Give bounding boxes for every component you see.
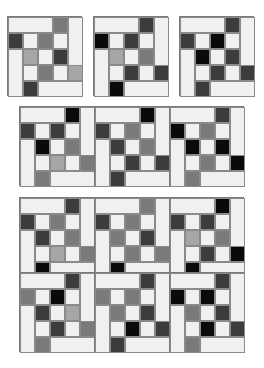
light-strip (20, 107, 65, 123)
quilt-square (225, 49, 240, 65)
quilt-square (185, 230, 200, 246)
quilt-square (200, 214, 215, 230)
quilt-square (23, 65, 38, 81)
quilt-block (19, 106, 94, 186)
light-strip (8, 17, 53, 33)
quilt-square (140, 289, 155, 305)
quilt-block (169, 106, 244, 186)
light-strip (20, 273, 65, 289)
quilt-block (169, 272, 244, 352)
quilt-square (80, 155, 95, 171)
light-strip (8, 49, 23, 97)
quilt-square (195, 49, 210, 65)
quilt-square (215, 305, 230, 321)
quilt-block (94, 106, 169, 186)
quilt-square (200, 289, 215, 305)
quilt-square (109, 33, 124, 49)
quilt-square (140, 139, 155, 155)
quilt-square (50, 155, 65, 171)
light-strip (20, 305, 35, 353)
light-strip (125, 171, 170, 187)
quilt-square (35, 289, 50, 305)
quilt-square (195, 65, 210, 81)
quilt-square (109, 65, 124, 81)
quilt-square (240, 65, 255, 81)
quilt-square (140, 198, 155, 214)
quilt-square (180, 33, 195, 49)
light-strip (200, 171, 245, 187)
light-strip (95, 230, 110, 278)
quilt-square (109, 81, 124, 97)
quilt-square (53, 33, 68, 49)
quilt-square (210, 49, 225, 65)
quilt-square (230, 321, 245, 337)
quilt-square (35, 171, 50, 187)
quilt-square (65, 139, 80, 155)
quilt-square (200, 155, 215, 171)
light-strip (180, 49, 195, 97)
quilt-square (185, 139, 200, 155)
light-strip (95, 198, 140, 214)
quilt-square (140, 230, 155, 246)
quilt-square (225, 33, 240, 49)
quilt-square (110, 123, 125, 139)
quilt-square (139, 33, 154, 49)
quilt-square (50, 123, 65, 139)
light-strip (95, 305, 110, 353)
quilt-square (210, 65, 225, 81)
quilt-square (125, 289, 140, 305)
light-strip (20, 198, 65, 214)
quilt-square (125, 246, 140, 262)
quilt-square (140, 214, 155, 230)
quilt-square (110, 337, 125, 353)
quilt-square (140, 305, 155, 321)
quilt-square (215, 214, 230, 230)
quilt-square (23, 81, 38, 97)
quilt-square (230, 246, 245, 262)
light-strip (94, 17, 139, 33)
quilt-square (200, 139, 215, 155)
quilt-square (65, 214, 80, 230)
quilt-square (110, 321, 125, 337)
quilt-square (215, 246, 230, 262)
light-strip (38, 81, 83, 97)
quilt-square (200, 230, 215, 246)
quilt-square (53, 49, 68, 65)
light-strip (50, 337, 95, 353)
quilt-square (200, 246, 215, 262)
light-strip (95, 273, 140, 289)
quilt-square (185, 171, 200, 187)
quilt-square (140, 123, 155, 139)
quilt-square (200, 123, 215, 139)
quilt-square (125, 230, 140, 246)
quilt-square (35, 155, 50, 171)
quilt-square (65, 155, 80, 171)
quilt-square (140, 246, 155, 262)
quilt-square (35, 246, 50, 262)
light-strip (170, 273, 215, 289)
quilt-square (230, 155, 245, 171)
quilt-square (110, 214, 125, 230)
quilt-square (110, 171, 125, 187)
quilt-square (124, 49, 139, 65)
quilt-square (53, 65, 68, 81)
quilt-square (215, 123, 230, 139)
quilt-square (95, 214, 110, 230)
light-strip (20, 230, 35, 278)
quilt-square (140, 107, 155, 123)
quilt-square (140, 273, 155, 289)
quilt-square (20, 289, 35, 305)
quilt-square (35, 139, 50, 155)
quilt-square (35, 123, 50, 139)
quilt-square (155, 246, 170, 262)
quilt-square (210, 33, 225, 49)
quilt-square (170, 123, 185, 139)
quilt-square (185, 321, 200, 337)
quilt-square (20, 123, 35, 139)
light-strip (170, 139, 185, 187)
quilt-square (53, 17, 68, 33)
light-strip (124, 81, 169, 97)
quilt-square (170, 289, 185, 305)
quilt-square (125, 139, 140, 155)
quilt-square (94, 33, 109, 49)
